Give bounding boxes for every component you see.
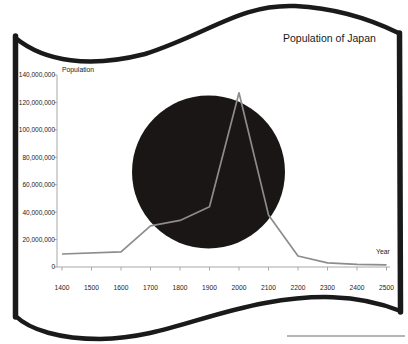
x-tick-label: 1400	[55, 284, 70, 291]
flag-border-right	[400, 33, 401, 312]
x-tick-label: 2300	[320, 284, 335, 291]
y-tick-label: 120,000,000	[19, 99, 56, 106]
y-tick-label: 140,000,000	[19, 71, 56, 78]
x-tick-label: 1600	[114, 284, 129, 291]
y-tick-label: 0	[51, 263, 55, 270]
x-tick-label: 1800	[173, 284, 188, 291]
x-axis-label: Year	[376, 248, 390, 255]
x-tick-label: 2500	[379, 284, 394, 291]
bottom-right-partial-element-edge	[287, 335, 405, 337]
flag-border-bottom-wave	[16, 297, 401, 339]
y-axis-label: Population	[62, 66, 94, 73]
x-tick-label: 1900	[202, 284, 217, 291]
x-tick-label: 2400	[350, 284, 365, 291]
japan-flag-population-chart: 020,000,00040,000,00060,000,00080,000,00…	[0, 0, 408, 344]
x-tick-label: 2100	[261, 284, 276, 291]
y-tick-label: 80,000,000	[22, 154, 55, 161]
x-tick-label: 1500	[84, 284, 99, 291]
chart-title: Population of Japan	[283, 32, 376, 44]
y-tick-label: 20,000,000	[22, 236, 55, 243]
chart-svg: 020,000,00040,000,00060,000,00080,000,00…	[0, 0, 408, 344]
x-tick-label: 2000	[232, 284, 247, 291]
y-tick-label: 40,000,000	[22, 209, 55, 216]
x-tick-label: 2200	[291, 284, 306, 291]
y-tick-label: 100,000,000	[19, 126, 56, 133]
y-tick-label: 60,000,000	[22, 181, 55, 188]
x-tick-label: 1700	[143, 284, 158, 291]
